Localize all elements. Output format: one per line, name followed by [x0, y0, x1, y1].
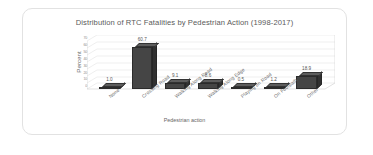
chart-title: Distribution of RTC Fatalities by Pedest…: [23, 18, 346, 27]
bar-series: 1.060.79.18.60.51.218.9: [87, 35, 335, 93]
y-axis-tick-labels: 70 60 50 40 30 20 10 0: [71, 37, 87, 89]
plot-area: 1.060.79.18.60.51.218.9: [87, 35, 335, 93]
x-axis-tick-labels: NoneCrossing RoadWalking Along RoadWalki…: [87, 93, 347, 129]
bar-top-face: [135, 43, 160, 47]
bar-value-label: 1.0: [95, 77, 123, 82]
bar: [296, 76, 316, 89]
bar-front-face: [132, 47, 152, 89]
bar-value-label: 60.7: [128, 37, 156, 42]
bar-value-label: 18.9: [292, 66, 320, 71]
bar: [132, 47, 152, 89]
chart-frame: Distribution of RTC Fatalities by Pedest…: [22, 8, 347, 135]
bar-top-face: [102, 83, 127, 87]
bar-top-face: [299, 72, 324, 76]
x-axis-title: Pedestrian action: [23, 117, 346, 123]
bar-front-face: [296, 76, 316, 89]
